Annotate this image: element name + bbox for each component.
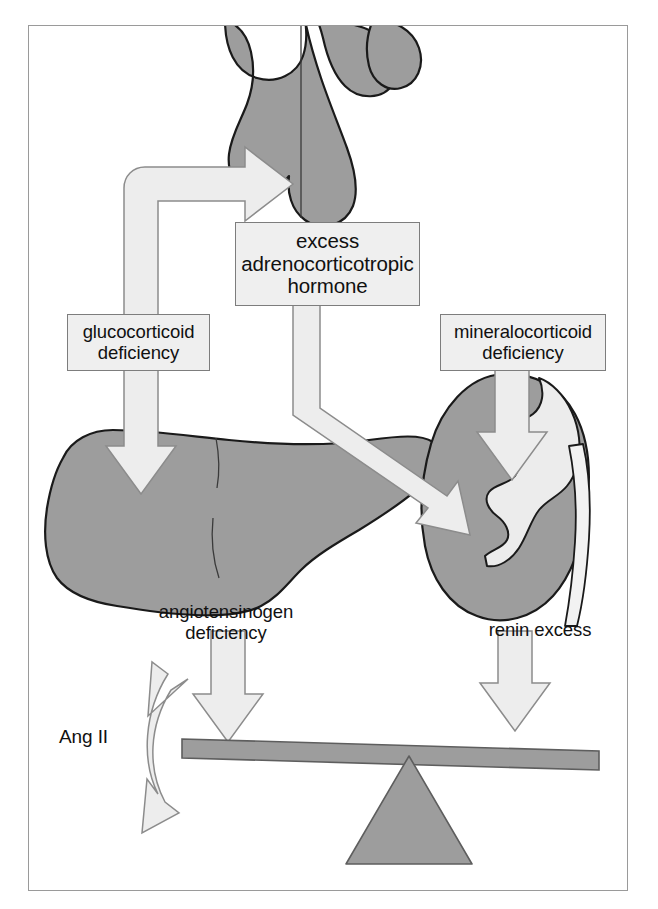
arrow-ang-ii-double-curved	[142, 662, 188, 833]
balance-fulcrum	[346, 756, 472, 864]
label-renin-excess: renin excess	[460, 620, 620, 641]
figure-caption	[28, 894, 632, 909]
label-box-glucocorticoid-deficiency-text: glucocorticoid deficiency	[83, 322, 195, 363]
label-ang-ii: Ang II	[59, 726, 169, 747]
arrow-renin-to-beam	[480, 631, 550, 731]
figure-frame: .organ { fill: #9d9d9d; stroke: #1a1a1a;…	[28, 25, 628, 891]
label-box-excess-acth: excess adrenocorticotropic hormone	[235, 222, 420, 306]
arrow-angiotensinogen-to-beam	[193, 631, 263, 742]
label-angiotensinogen-deficiency: angiotensinogen deficiency	[131, 602, 321, 643]
label-box-excess-acth-text: excess adrenocorticotropic hormone	[241, 230, 413, 299]
balance-beam	[182, 739, 599, 770]
diagram-canvas: .organ { fill: #9d9d9d; stroke: #1a1a1a;…	[29, 26, 628, 891]
figure-root: .organ { fill: #9d9d9d; stroke: #1a1a1a;…	[0, 0, 658, 909]
label-box-mineralocorticoid-deficiency-text: mineralocorticoid deficiency	[454, 322, 592, 363]
label-box-glucocorticoid-deficiency: glucocorticoid deficiency	[67, 314, 210, 371]
label-box-mineralocorticoid-deficiency: mineralocorticoid deficiency	[440, 314, 606, 371]
seesaw-balance	[182, 739, 599, 864]
